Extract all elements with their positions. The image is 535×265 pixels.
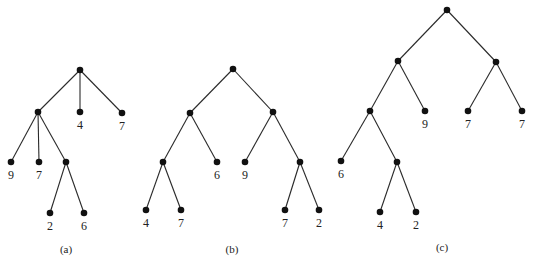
tree-edge	[273, 112, 300, 162]
leaf-node	[77, 109, 84, 116]
node-label: 7	[36, 168, 42, 182]
tree-diagram-figure: 479726(a) 694772(b) 977642(c)	[0, 0, 535, 265]
tree-edge	[233, 69, 273, 112]
internal-node	[444, 7, 451, 14]
leaf-node	[282, 207, 289, 214]
node-label: 7	[519, 117, 525, 131]
tree-edge	[341, 111, 370, 161]
node-label: 7	[465, 117, 471, 131]
node-label: 6	[214, 168, 220, 182]
tree-edge	[190, 69, 233, 113]
internal-node	[63, 159, 70, 166]
leaf-node	[143, 207, 150, 214]
tree-b: 694772(b)	[143, 66, 323, 256]
leaf-node	[316, 207, 323, 214]
tree-edge	[163, 113, 190, 162]
tree-caption: (a)	[60, 243, 73, 256]
tree-edge	[370, 111, 397, 162]
tree-edge	[398, 10, 447, 61]
node-label: 7	[282, 216, 288, 230]
leaf-node	[8, 159, 15, 166]
leaf-node	[242, 159, 249, 166]
leaf-node	[377, 209, 384, 216]
internal-node	[230, 66, 237, 73]
tree-edge	[397, 162, 416, 212]
internal-node	[187, 110, 194, 117]
tree-edge	[50, 162, 66, 213]
tree-caption: (b)	[226, 243, 239, 256]
node-label: 4	[77, 118, 83, 132]
node-label: 7	[178, 216, 184, 230]
internal-node	[160, 159, 167, 166]
tree-edge	[66, 162, 84, 213]
tree-edge	[380, 162, 397, 212]
tree-edge	[245, 112, 273, 162]
internal-node	[297, 159, 304, 166]
node-label: 9	[8, 168, 14, 182]
tree-edge	[38, 112, 66, 162]
tree-caption: (c)	[436, 241, 449, 254]
node-label: 4	[377, 218, 383, 232]
tree-edge	[146, 162, 163, 210]
tree-edge	[447, 10, 496, 62]
node-label: 2	[413, 218, 419, 232]
tree-edge	[496, 62, 522, 111]
leaf-node	[422, 108, 429, 115]
leaf-node	[465, 108, 472, 115]
tree-edge	[300, 162, 319, 210]
tree-edge	[190, 113, 217, 162]
node-label: 7	[119, 119, 125, 133]
internal-node	[270, 109, 277, 116]
tree-edge	[11, 112, 38, 162]
tree-edge	[370, 61, 398, 111]
internal-node	[35, 109, 42, 116]
node-label: 6	[338, 167, 344, 181]
node-label: 9	[242, 168, 248, 182]
leaf-node	[178, 207, 185, 214]
node-label: 2	[316, 216, 322, 230]
leaf-node	[214, 159, 221, 166]
internal-node	[367, 108, 374, 115]
internal-node	[394, 159, 401, 166]
node-label: 4	[143, 216, 149, 230]
tree-edge	[285, 162, 300, 210]
tree-c: 977642(c)	[338, 7, 526, 254]
leaf-node	[519, 108, 526, 115]
tree-a: 479726(a)	[8, 67, 126, 256]
internal-node	[77, 67, 84, 74]
tree-edge	[468, 62, 496, 111]
internal-node	[395, 58, 402, 65]
tree-edge	[38, 70, 80, 112]
leaf-node	[47, 210, 54, 217]
tree-edge	[80, 70, 122, 113]
leaf-node	[338, 158, 345, 165]
leaf-node	[413, 209, 420, 216]
node-label: 6	[81, 219, 87, 233]
internal-node	[493, 59, 500, 66]
tree-edge	[38, 112, 39, 162]
tree-edge	[163, 162, 181, 210]
node-label: 2	[47, 219, 53, 233]
leaf-node	[36, 159, 43, 166]
node-label: 9	[422, 117, 428, 131]
leaf-node	[119, 110, 126, 117]
leaf-node	[81, 210, 88, 217]
tree-edge	[398, 61, 425, 111]
